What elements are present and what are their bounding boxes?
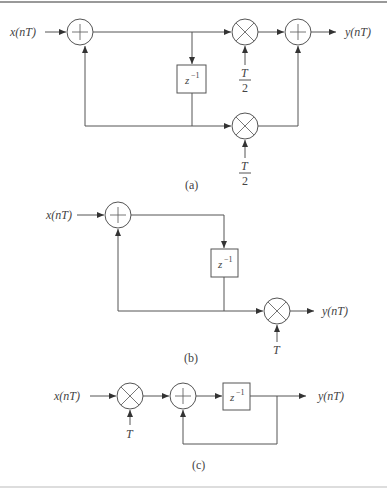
diagram-a: x(nT) z −1 T 2 y(nT) — [9, 19, 371, 192]
delay-block: z −1 — [211, 249, 238, 277]
input-label: x(nT) — [9, 25, 36, 39]
gain-label: T — [273, 343, 281, 357]
output-label: y(nT) — [321, 304, 348, 318]
multiplier-top — [232, 19, 258, 45]
diagram-b: x(nT) z −1 y(nT) T (b) — [45, 202, 348, 365]
delay-block: z −1 — [223, 383, 250, 410]
input-label: x(nT) — [45, 208, 72, 222]
diagram-c: x(nT) T z −1 y(nT) (c) — [53, 383, 344, 472]
figure-canvas: x(nT) z −1 T 2 y(nT) — [0, 0, 387, 488]
delay-exp: −1 — [191, 71, 200, 80]
adder-1 — [67, 19, 93, 45]
input-label: x(nT) — [53, 389, 80, 403]
output-label: y(nT) — [344, 25, 371, 39]
adder-2 — [285, 19, 311, 45]
gain-label: T — [126, 427, 134, 441]
delay-z: z — [229, 391, 235, 403]
delay-exp: −1 — [224, 255, 233, 264]
output-label: y(nT) — [317, 389, 344, 403]
multiplier-bottom — [232, 113, 258, 139]
delay-exp: −1 — [236, 388, 245, 397]
multiplier — [117, 383, 143, 409]
gain-bottom-den: 2 — [242, 174, 248, 188]
gain-top-num: T — [241, 66, 249, 80]
gain-bottom-num: T — [241, 159, 249, 173]
caption-b: (b) — [184, 351, 198, 365]
multiplier — [264, 298, 290, 324]
delay-block: z −1 — [177, 65, 206, 93]
gain-top-den: 2 — [242, 81, 248, 95]
delay-z: z — [217, 258, 223, 270]
adder — [170, 383, 196, 409]
adder — [105, 202, 131, 228]
caption-a: (a) — [185, 178, 198, 192]
delay-z: z — [184, 74, 190, 86]
caption-c: (c) — [192, 458, 205, 472]
